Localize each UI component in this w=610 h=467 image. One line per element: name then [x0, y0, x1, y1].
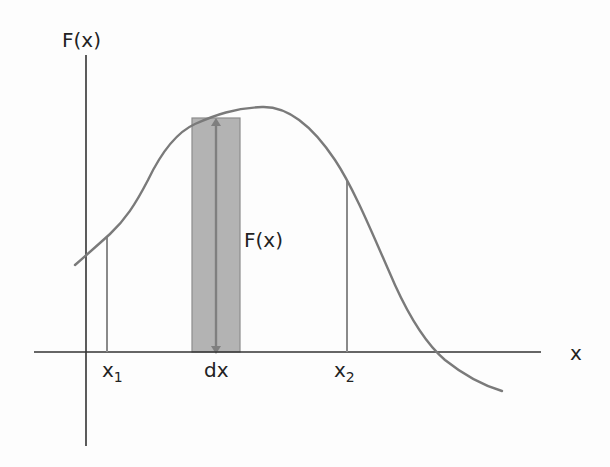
- strip-height-label: F(x): [244, 230, 283, 250]
- lower-bound-label: x1: [102, 360, 123, 384]
- lower-bound-base: x: [102, 358, 114, 382]
- upper-bound-subscript: 2: [346, 369, 355, 385]
- diagram-graphic: [0, 0, 610, 467]
- y-axis-label: F(x): [62, 30, 101, 50]
- function-curve: [75, 107, 502, 391]
- lower-bound-subscript: 1: [114, 369, 123, 385]
- strip-width-label: dx: [204, 360, 229, 380]
- x-axis-label: x: [570, 343, 582, 363]
- upper-bound-base: x: [334, 358, 346, 382]
- integral-strip-diagram: F(x) F(x) x1 dx x2 x: [0, 0, 610, 467]
- upper-bound-label: x2: [334, 360, 355, 384]
